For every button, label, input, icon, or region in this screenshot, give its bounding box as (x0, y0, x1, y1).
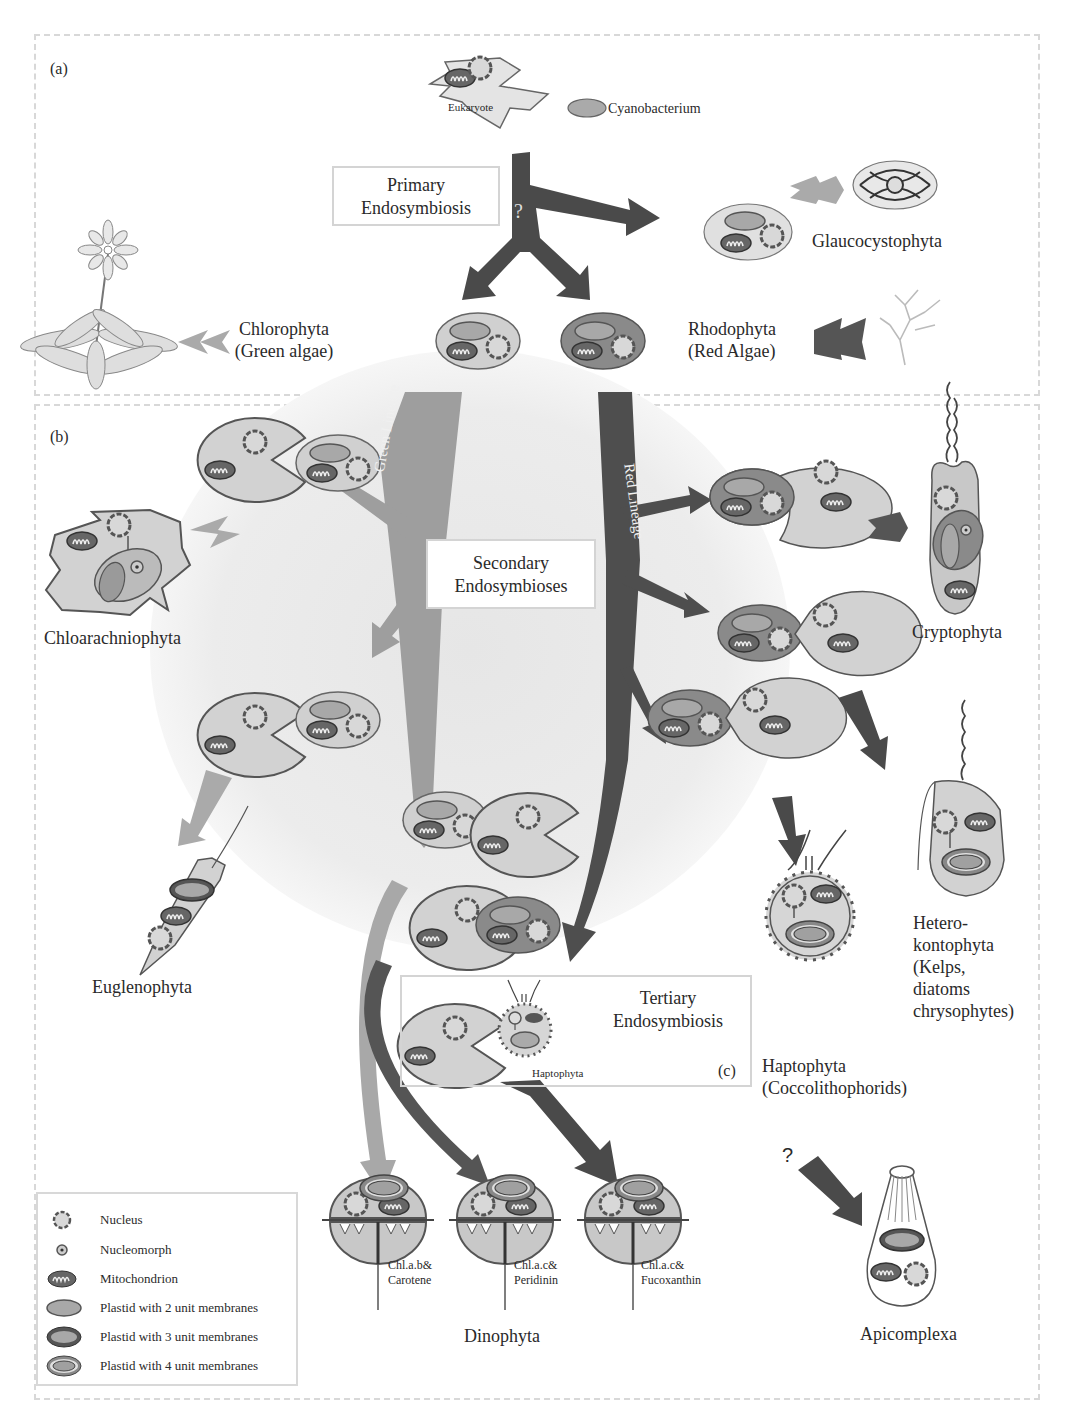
legend-item-plastid-3: Plastid with 3 unit membranes (46, 1325, 258, 1349)
panel-c-label: (c) (718, 1059, 736, 1082)
cyanobacterium-label: Cyanobacterium (608, 98, 701, 120)
legend: Nucleus Nucleomorph Mitochondrion Plasti… (36, 1192, 298, 1386)
primary-box-line1: Primary (334, 174, 498, 197)
chloarachniophyta-label: Chloarachniophyta (44, 627, 181, 649)
panel-b-label: (b) (50, 426, 69, 448)
dinophyta-pigment-3: Chl.a.c& Fucoxanthin (641, 1258, 701, 1288)
legend-item-nucleomorph: Nucleomorph (46, 1238, 171, 1262)
legend-item-plastid-2: Plastid with 2 unit membranes (46, 1296, 258, 1320)
heterokontophyta-line1: Hetero- (913, 912, 1014, 934)
plastid-3-membrane-icon (46, 1325, 92, 1349)
chlorophyta-label: Chlorophyta (Green algae) (210, 318, 358, 362)
legend-label: Mitochondrion (100, 1271, 178, 1287)
nucleus-icon (46, 1208, 92, 1232)
heterokontophyta-line4: diatoms (913, 978, 1014, 1000)
apicomplexa-label: Apicomplexa (860, 1323, 957, 1345)
plastid-4-membrane-icon (46, 1354, 92, 1378)
heterokontophyta-line3: (Kelps, (913, 956, 1014, 978)
pigment-3-line1: Chl.a.c& (641, 1258, 701, 1273)
tertiary-box-line2: Endosymbiosis (598, 1010, 738, 1033)
secondary-box-line1: Secondary (428, 552, 594, 575)
primary-box-line2: Endosymbiosis (334, 197, 498, 220)
chlorophyta-common: (Green algae) (210, 340, 358, 362)
eukaryote-label: Eukaryote (448, 101, 493, 114)
tertiary-endosymbiosis-box: Tertiary Endosymbiosis Haptophyta (c) (400, 975, 752, 1087)
legend-label: Plastid with 2 unit membranes (100, 1300, 258, 1316)
euglenophyta-label: Euglenophyta (92, 976, 192, 998)
chlorophyta-name: Chlorophyta (210, 318, 358, 340)
pigment-2-line1: Chl.a.c& (514, 1258, 558, 1273)
dinophyta-label: Dinophyta (464, 1325, 540, 1347)
primary-endosymbiosis-box: Primary Endosymbiosis (332, 166, 500, 226)
rhodophyta-common: (Red Algae) (688, 340, 776, 362)
panel-a-label: (a) (50, 58, 68, 80)
pigment-1-line1: Chl.a.b& (388, 1258, 432, 1273)
legend-label: Plastid with 4 unit membranes (100, 1358, 258, 1374)
legend-item-plastid-4: Plastid with 4 unit membranes (46, 1354, 258, 1378)
cryptophyta-label: Cryptophyta (912, 621, 1002, 643)
mitochondrion-icon (46, 1267, 92, 1291)
haptophyta-name: Haptophyta (762, 1055, 907, 1077)
dinophyta-pigment-1: Chl.a.b& Carotene (388, 1258, 432, 1288)
secondary-endosymbioses-box: Secondary Endosymbioses (426, 539, 596, 609)
primary-question-mark: ? (514, 200, 523, 222)
heterokontophyta-label: Hetero- kontophyta (Kelps, diatoms chrys… (913, 912, 1014, 1022)
dinophyta-pigment-2: Chl.a.c& Peridinin (514, 1258, 558, 1288)
haptophyta-label: Haptophyta (Coccolithophorids) (762, 1055, 907, 1099)
secondary-box-line2: Endosymbioses (428, 575, 594, 598)
pigment-3-line2: Fucoxanthin (641, 1273, 701, 1288)
tertiary-box-line1: Tertiary (598, 987, 738, 1010)
heterokontophyta-line5: chrysophytes) (913, 1000, 1014, 1022)
glaucocystophyta-label: Glaucocystophyta (812, 230, 942, 252)
apicomplexa-question-mark: ? (782, 1144, 793, 1166)
heterokontophyta-line2: kontophyta (913, 934, 1014, 956)
rhodophyta-label: Rhodophyta (Red Algae) (688, 318, 776, 362)
plastid-2-membrane-icon (46, 1296, 92, 1320)
pigment-1-line2: Carotene (388, 1273, 432, 1288)
pigment-2-line2: Peridinin (514, 1273, 558, 1288)
legend-label: Nucleomorph (100, 1242, 171, 1258)
haptophyta-common: (Coccolithophorids) (762, 1077, 907, 1099)
legend-label: Plastid with 3 unit membranes (100, 1329, 258, 1345)
legend-item-mitochondrion: Mitochondrion (46, 1267, 178, 1291)
legend-item-nucleus: Nucleus (46, 1208, 143, 1232)
tertiary-partner-label: Haptophyta (532, 1067, 583, 1080)
legend-label: Nucleus (100, 1212, 143, 1228)
nucleomorph-icon (46, 1238, 92, 1262)
rhodophyta-name: Rhodophyta (688, 318, 776, 340)
